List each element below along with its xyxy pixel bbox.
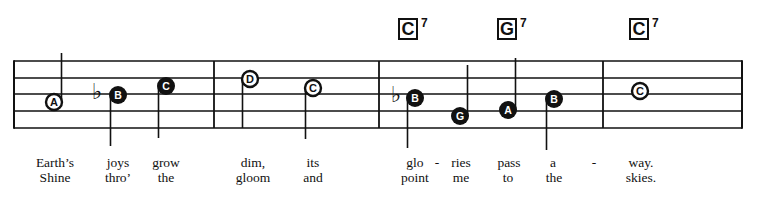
chord-root: C (629, 18, 649, 40)
note-letter: C (162, 80, 170, 92)
lyric-syllable: and (303, 171, 323, 185)
chord-symbol: C7 (629, 18, 659, 40)
lyric-syllable: ries (451, 156, 471, 170)
lyric-syllable: joys (107, 156, 130, 170)
lyric-syllable: thro’ (105, 171, 131, 185)
chord-root: C (398, 18, 418, 40)
lyric-syllable: grow (152, 156, 180, 170)
lyric-syllable: gloom (236, 171, 271, 185)
chord-symbol: C7 (398, 18, 428, 40)
lyric-syllable: me (453, 171, 470, 185)
note-letter: C (309, 82, 317, 94)
lyric-syllable: the (158, 171, 175, 185)
note-letter: G (456, 110, 464, 122)
lyric-syllable: glo (406, 156, 423, 170)
note-letter: C (636, 85, 644, 97)
lyric-syllable: - (435, 156, 440, 170)
lyric-syllable: skies. (626, 171, 656, 185)
lyric-syllable: Shine (40, 171, 71, 185)
lyric-syllable: point (401, 171, 429, 185)
note-letter: A (504, 104, 512, 116)
lyric-syllable: way. (629, 156, 654, 170)
chord-root: G (497, 18, 517, 40)
lyric-syllable: a (550, 156, 556, 170)
lyric-syllable: dim, (241, 156, 265, 170)
lyric-syllable: - (592, 156, 597, 170)
chord-quality: 7 (652, 16, 659, 30)
note-letter: D (246, 73, 254, 85)
note-letter: A (50, 96, 58, 108)
lyric-syllable: pass (497, 156, 520, 170)
chord-quality: 7 (421, 16, 428, 30)
lyric-syllable: to (503, 171, 514, 185)
flat-icon: ♭ (92, 79, 102, 104)
chord-symbol: G7 (497, 18, 527, 40)
lyric-syllable: its (307, 156, 320, 170)
note-letter: B (411, 92, 419, 104)
note-letter: B (114, 89, 122, 101)
note-letter: B (550, 93, 558, 105)
flat-icon: ♭ (391, 82, 401, 107)
lyric-syllable: Earth’s (36, 156, 74, 170)
lyric-syllable: the (546, 171, 563, 185)
chord-quality: 7 (520, 16, 527, 30)
